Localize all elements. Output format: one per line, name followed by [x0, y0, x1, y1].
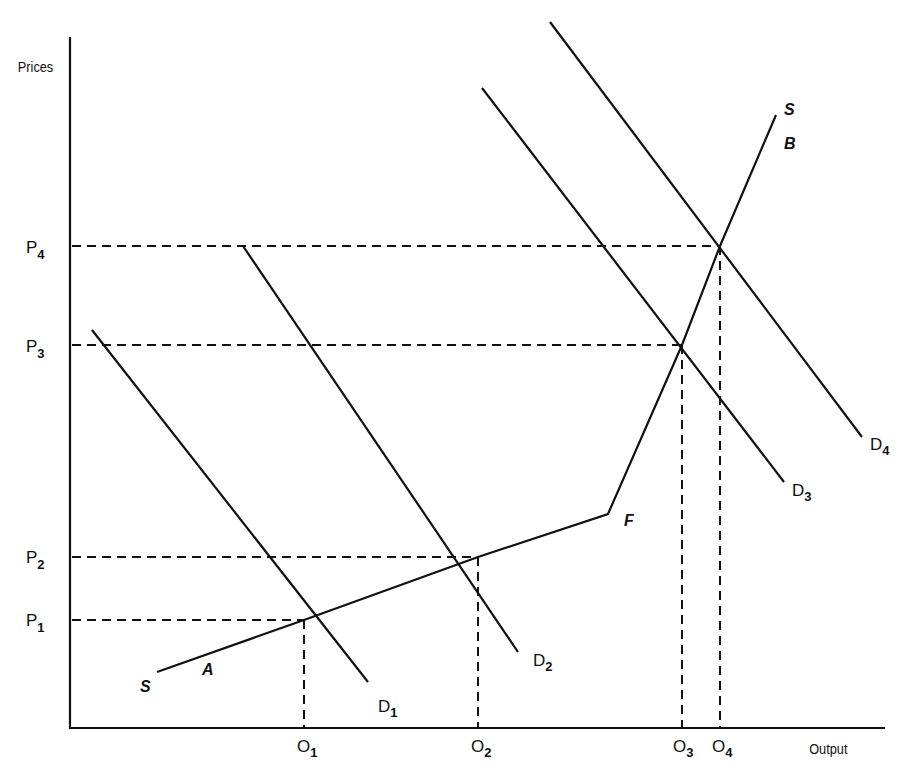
- label-d3: D3: [792, 481, 812, 504]
- label-d4: D4: [870, 435, 890, 458]
- label-s-start: S: [140, 678, 151, 695]
- demand-curve-d1: [92, 330, 368, 682]
- tick-o2: O2: [471, 737, 491, 760]
- label-point-a: A: [201, 661, 214, 678]
- guide-lines: [72, 246, 720, 727]
- label-point-b: B: [784, 135, 796, 152]
- tick-o3: O3: [673, 737, 693, 760]
- demand-curve-d3: [482, 88, 784, 482]
- label-d2: D2: [533, 651, 553, 674]
- x-axis-label: Output: [809, 740, 847, 757]
- label-point-f: F: [624, 512, 635, 529]
- curves: [92, 22, 862, 682]
- label-d1: D1: [378, 697, 398, 720]
- tick-o1: O1: [297, 737, 317, 760]
- demand-curve-d4: [550, 22, 862, 437]
- tick-p4: P4: [26, 238, 45, 262]
- label-s-end: S: [784, 101, 795, 118]
- supply-demand-diagram: Prices Output P4 P3 P2 P1 O1 O2 O3 O4 D1…: [0, 0, 911, 774]
- tick-p3: P3: [26, 337, 45, 361]
- tick-p2: P2: [26, 548, 45, 572]
- tick-p1: P1: [26, 611, 45, 635]
- tick-o4: O4: [712, 737, 733, 760]
- demand-curve-d2: [243, 246, 518, 652]
- y-axis-label: Prices: [18, 58, 53, 75]
